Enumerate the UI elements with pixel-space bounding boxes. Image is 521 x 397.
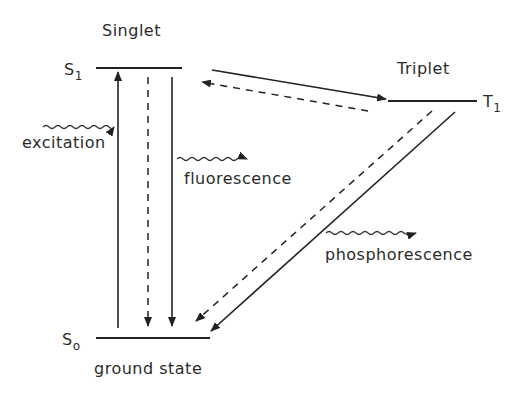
triplet-heading: Triplet — [396, 59, 450, 78]
s0-label: So — [62, 330, 81, 353]
s1-label: S1 — [64, 60, 83, 83]
excitation-photon-icon — [43, 126, 114, 129]
ground-state-label: ground state — [94, 359, 202, 378]
phosphorescence-arrow — [211, 112, 455, 331]
fluorescence-photon-icon — [177, 158, 247, 161]
jablonski-diagram: Singlet Triplet S1 T1 So ground state ex… — [0, 0, 521, 397]
reverse-isc-arrow — [202, 82, 368, 111]
t1-s0-nonradiative-arrow — [196, 111, 432, 321]
fluorescence-label: fluorescence — [184, 169, 292, 188]
intersystem-crossing-arrow — [212, 70, 386, 99]
singlet-heading: Singlet — [102, 21, 161, 40]
phosphorescence-photon-icon — [326, 232, 416, 235]
excitation-label: excitation — [22, 133, 106, 152]
phosphorescence-label: phosphorescence — [325, 245, 473, 264]
t1-label: T1 — [482, 92, 501, 115]
